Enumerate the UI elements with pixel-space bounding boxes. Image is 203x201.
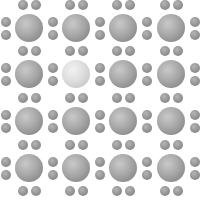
sphere [15, 107, 43, 135]
small-dot [48, 170, 58, 180]
small-dot [31, 46, 41, 56]
small-dot [48, 30, 58, 40]
small-dot [48, 63, 58, 73]
small-dot [1, 123, 11, 133]
small-dot [190, 170, 200, 180]
small-dot [1, 157, 11, 167]
small-dot [142, 30, 152, 40]
small-dot [48, 17, 58, 27]
small-dot [95, 157, 105, 167]
small-dot [65, 0, 75, 10]
small-dot [18, 46, 28, 56]
small-dot [125, 93, 135, 103]
small-dot [190, 123, 200, 133]
sphere [157, 107, 185, 135]
small-dot [142, 17, 152, 27]
small-dot [1, 110, 11, 120]
small-dot [78, 140, 88, 150]
small-dot [48, 76, 58, 86]
small-dot [18, 186, 28, 196]
sphere [109, 107, 137, 135]
small-dot [142, 63, 152, 73]
small-dot [31, 0, 41, 10]
small-dot [95, 110, 105, 120]
sphere [157, 60, 185, 88]
small-dot [48, 157, 58, 167]
small-dot [142, 110, 152, 120]
sphere [109, 14, 137, 42]
small-dot [78, 186, 88, 196]
small-dot [160, 46, 170, 56]
small-dot [1, 17, 11, 27]
small-dot [65, 140, 75, 150]
small-dot [190, 17, 200, 27]
small-dot [112, 140, 122, 150]
small-dot [65, 186, 75, 196]
small-dot [1, 76, 11, 86]
small-dot [31, 186, 41, 196]
small-dot [95, 17, 105, 27]
small-dot [142, 123, 152, 133]
small-dot [160, 0, 170, 10]
small-dot [112, 186, 122, 196]
small-dot [112, 93, 122, 103]
small-dot [48, 110, 58, 120]
small-dot [190, 76, 200, 86]
small-dot [18, 140, 28, 150]
small-dot [160, 140, 170, 150]
small-dot [142, 170, 152, 180]
small-dot [1, 63, 11, 73]
small-dot [1, 170, 11, 180]
small-dot [78, 93, 88, 103]
small-dot [190, 157, 200, 167]
small-dot [112, 0, 122, 10]
small-dot [173, 93, 183, 103]
small-dot [125, 46, 135, 56]
sphere [157, 14, 185, 42]
small-dot [31, 93, 41, 103]
small-dot [142, 76, 152, 86]
small-dot [160, 186, 170, 196]
small-dot [65, 46, 75, 56]
small-dot [173, 46, 183, 56]
sphere [15, 60, 43, 88]
highlighted-sphere [62, 60, 90, 88]
sphere [62, 14, 90, 42]
small-dot [31, 140, 41, 150]
small-dot [173, 186, 183, 196]
small-dot [160, 93, 170, 103]
small-dot [125, 186, 135, 196]
sphere [15, 14, 43, 42]
small-dot [48, 123, 58, 133]
sphere [109, 60, 137, 88]
small-dot [95, 170, 105, 180]
sphere [15, 154, 43, 182]
small-dot [95, 123, 105, 133]
small-dot [190, 110, 200, 120]
small-dot [65, 93, 75, 103]
small-dot [18, 93, 28, 103]
sphere [62, 154, 90, 182]
small-dot [78, 0, 88, 10]
small-dot [1, 30, 11, 40]
sphere [157, 154, 185, 182]
small-dot [173, 0, 183, 10]
small-dot [95, 76, 105, 86]
small-dot [95, 63, 105, 73]
small-dot [142, 157, 152, 167]
small-dot [95, 30, 105, 40]
sphere-grid-illusion [0, 0, 203, 201]
small-dot [173, 140, 183, 150]
sphere [109, 154, 137, 182]
small-dot [190, 63, 200, 73]
small-dot [18, 0, 28, 10]
small-dot [125, 140, 135, 150]
small-dot [78, 46, 88, 56]
sphere [62, 107, 90, 135]
small-dot [190, 30, 200, 40]
small-dot [125, 0, 135, 10]
small-dot [112, 46, 122, 56]
